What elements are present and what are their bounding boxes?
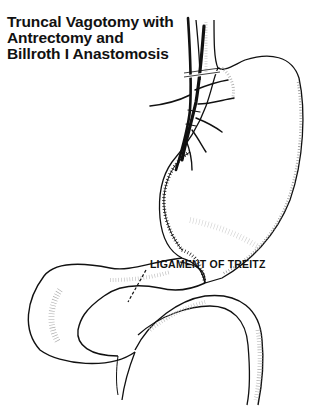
diagram-canvas: Truncal Vagotomy with Antrectomy and Bil… xyxy=(0,0,319,416)
duodenum xyxy=(28,258,205,364)
jejunum xyxy=(117,295,263,405)
ligament-of-treitz-label: LIGAMENT OF TREITZ xyxy=(150,258,266,270)
anatomy-illustration xyxy=(0,0,319,416)
